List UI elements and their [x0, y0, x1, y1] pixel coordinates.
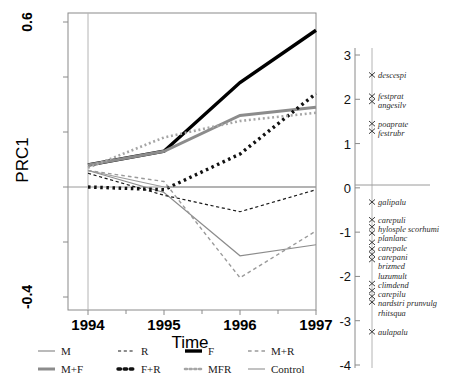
species-entry: carepilu — [369, 288, 406, 299]
x-axis-ticks — [88, 310, 316, 315]
species-entry: descespi — [369, 71, 407, 80]
legend-item-m[interactable]: M — [38, 345, 71, 357]
legend-item-m-r[interactable]: M+R — [248, 345, 295, 357]
series-layer — [88, 30, 316, 278]
series-line-f — [88, 30, 316, 165]
y-axis-ticks — [63, 22, 68, 297]
legend-label: M+R — [271, 345, 295, 357]
species-label: nardstri prunvulg — [378, 299, 437, 308]
species-label: rhitsqua — [378, 309, 406, 318]
species-axis-tick-label: -3 — [339, 314, 351, 329]
species-label: carepilu — [378, 290, 406, 299]
legend-label: Control — [271, 363, 305, 375]
legend-label: M — [61, 345, 71, 357]
species-axis-ticks: 3210-1-2-3-4 — [339, 48, 360, 373]
species-label: angesilv — [378, 101, 406, 110]
legend-label: F — [208, 345, 214, 357]
prc-figure: 0.6 -0.4 PRC1 1994 1995 1996 1997 Time — [0, 0, 463, 387]
species-label: aulapalu — [378, 328, 408, 337]
legend-label: M+F — [61, 363, 83, 375]
species-label: carepuli — [378, 216, 406, 225]
y-axis-title: PRC1 — [13, 137, 32, 182]
x-axis-tick-1996: 1996 — [223, 316, 256, 333]
species-label: festrubr — [378, 129, 405, 138]
species-label: planlanc — [377, 234, 408, 243]
legend-item-r[interactable]: R — [118, 345, 149, 357]
legend-item-f-r[interactable]: F+R — [118, 363, 161, 375]
species-entry: carepuli — [369, 216, 406, 225]
species-label: brizmed — [378, 262, 406, 271]
species-label: galipalu — [378, 198, 406, 207]
legend-label: R — [141, 345, 149, 357]
species-label: luzumult — [378, 272, 408, 281]
legend-item-control[interactable]: Control — [248, 363, 305, 375]
species-label: carepale — [378, 244, 407, 253]
x-axis-tick-1994: 1994 — [71, 316, 105, 333]
species-axis-tick-label: 3 — [344, 48, 351, 63]
legend-item-mfr[interactable]: MFR — [185, 363, 232, 375]
chart-canvas: 0.6 -0.4 PRC1 1994 1995 1996 1997 Time — [0, 0, 463, 387]
species-label: poaprate — [377, 120, 409, 129]
y-axis-tick-min: -0.4 — [19, 285, 35, 309]
species-axis-tick-label: 1 — [344, 137, 351, 152]
species-label: festprat — [378, 92, 404, 101]
main-plot-panel: 0.6 -0.4 PRC1 1994 1995 1996 1997 Time — [13, 12, 332, 352]
species-label: descespi — [378, 71, 407, 80]
x-axis-tick-1997: 1997 — [299, 316, 332, 333]
species-axis-tick-label: 0 — [344, 181, 351, 196]
species-entry: festrubr — [369, 129, 405, 138]
x-axis-title: Time — [171, 333, 208, 352]
species-entry: galipalu — [369, 198, 406, 207]
species-axis-tick-label: -2 — [339, 269, 351, 284]
species-label: hylosple scorhumi — [378, 225, 440, 234]
species-label: climdend — [378, 281, 410, 290]
species-score-panel: 3210-1-2-3-4 descespifestpratangesilvpoa… — [339, 48, 439, 373]
legend-label: F+R — [141, 363, 161, 375]
series-line-r — [88, 173, 316, 212]
legend-item-m-f[interactable]: M+F — [38, 363, 83, 375]
species-axis-tick-label: 2 — [344, 92, 351, 107]
species-entry: aulapalu — [369, 328, 408, 337]
species-entry: angesilv — [369, 99, 406, 111]
x-axis-tick-1995: 1995 — [147, 316, 180, 333]
legend-label: MFR — [208, 363, 232, 375]
species-marks-layer: descespifestpratangesilvpoapratefestrubr… — [369, 71, 440, 337]
y-axis-tick-max: 0.6 — [19, 12, 35, 32]
species-entry: poaprate — [369, 120, 409, 129]
species-label: carepani — [378, 253, 408, 262]
species-axis-tick-label: -4 — [339, 358, 351, 373]
species-axis-tick-label: -1 — [339, 225, 351, 240]
species-entry: hylosple scorhumi — [369, 224, 440, 234]
